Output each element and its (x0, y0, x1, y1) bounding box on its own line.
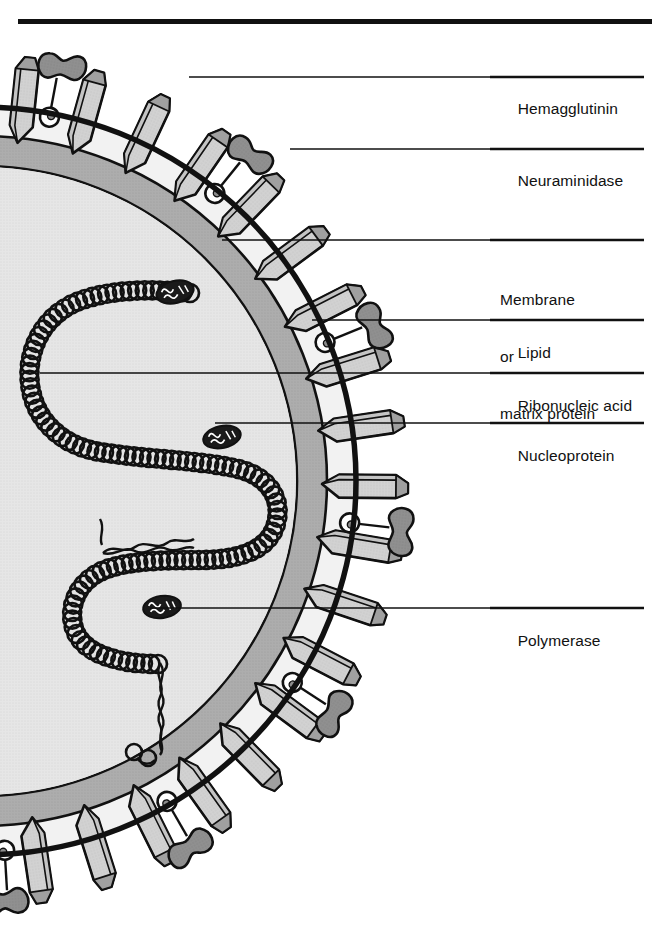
label-text-line1: Membrane (500, 290, 595, 309)
label-polymerase: Polymerase (500, 612, 600, 669)
label-text: Neuraminidase (518, 172, 624, 189)
label-nucleoprotein: Nucleoprotein (500, 427, 615, 484)
hemagglutinin-spike (322, 474, 408, 498)
diagram-page: Hemagglutinin Neuraminidase Membrane or … (0, 0, 656, 932)
label-text: Hemagglutinin (518, 100, 618, 117)
label-lipid: Lipid (500, 324, 551, 381)
label-hemagglutinin: Hemagglutinin (500, 80, 618, 137)
label-neuraminidase: Neuraminidase (500, 152, 623, 209)
label-text: Polymerase (518, 632, 601, 649)
label-text: Nucleoprotein (518, 447, 615, 464)
label-text: Ribonucleic acid (518, 397, 632, 414)
label-ribonucleic-acid: Ribonucleic acid (500, 377, 632, 434)
top-rule (18, 19, 652, 24)
label-text: Lipid (518, 344, 551, 361)
